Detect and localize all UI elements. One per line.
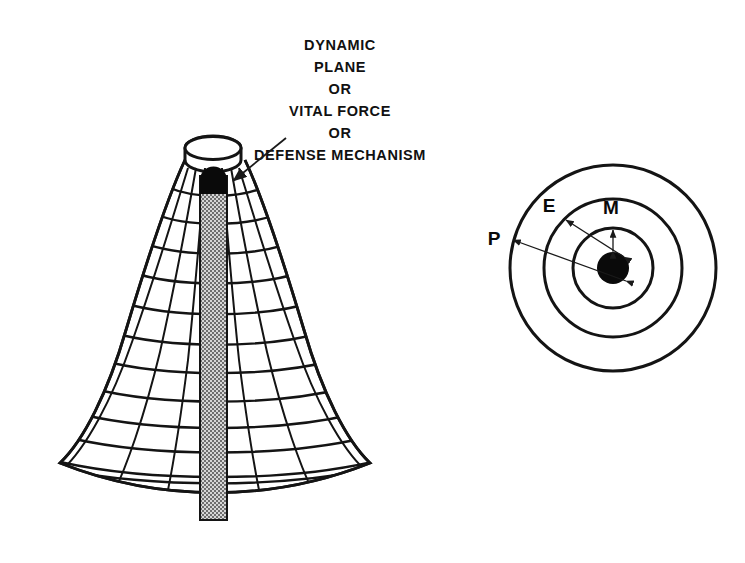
caption-line-1: DYNAMIC	[304, 37, 376, 53]
figure-root: DYNAMIC PLANE OR VITAL FORCE OR DEFENSE …	[0, 0, 745, 563]
caption-line-6: DEFENSE MECHANISM	[254, 147, 426, 163]
central-core-column	[200, 167, 227, 521]
cone-mesh-diagram	[43, 136, 387, 528]
caption-line-4: VITAL FORCE	[289, 103, 391, 119]
caption-line-3: OR	[329, 81, 352, 97]
rim-ellipse	[185, 137, 241, 160]
core-column-body	[200, 176, 227, 520]
center-disc	[597, 252, 629, 284]
caption-line-5: OR	[329, 125, 352, 141]
label-e: E	[543, 195, 556, 216]
figure-canvas: DYNAMIC PLANE OR VITAL FORCE OR DEFENSE …	[0, 0, 745, 563]
arrow-e	[566, 220, 624, 257]
core-column-cap-base	[200, 186, 227, 194]
cone-radial	[62, 168, 188, 470]
label-m: M	[603, 197, 619, 218]
caption-line-2: PLANE	[314, 59, 366, 75]
label-p: P	[488, 228, 501, 249]
concentric-circles-diagram: P E M	[488, 165, 716, 371]
